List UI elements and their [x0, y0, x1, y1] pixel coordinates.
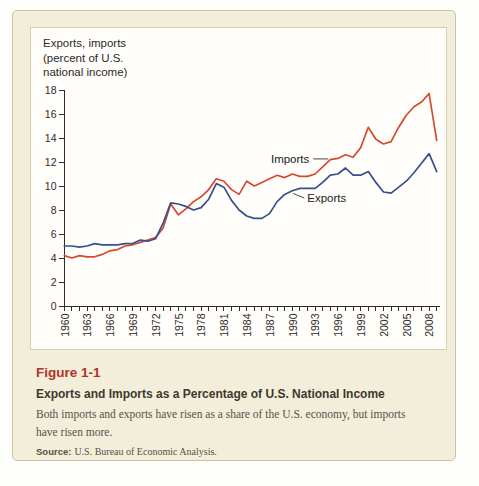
y-tick-label: 10: [45, 180, 57, 192]
y-tick-label: 8: [51, 204, 57, 216]
chart-panel: Exports, imports (percent of U.S. nation…: [30, 27, 447, 350]
figure-card: Exports, imports (percent of U.S. nation…: [12, 10, 456, 461]
y-tick-label: 12: [45, 156, 57, 168]
x-tick-label: 1963: [81, 313, 93, 337]
y-tick-label: 2: [51, 276, 57, 288]
y-tick-label: 6: [51, 228, 57, 240]
x-tick-label: 2002: [378, 313, 390, 337]
x-tick-label: 1978: [195, 313, 207, 337]
x-tick-label: 2005: [401, 313, 413, 337]
x-tick-label: 1987: [264, 313, 276, 337]
series-label-imports: Imports: [271, 153, 310, 165]
series-label-exports: Exports: [307, 192, 346, 204]
x-tick-label: 1969: [127, 313, 139, 337]
figure-source: Source:U.S. Bureau of Economic Analysis.: [36, 446, 217, 457]
y-tick-label: 14: [45, 132, 57, 144]
source-text: U.S. Bureau of Economic Analysis.: [74, 446, 216, 457]
y-tick-label: 18: [45, 84, 57, 96]
x-tick-label: 1996: [332, 313, 344, 337]
x-tick-label: 1993: [309, 313, 321, 337]
y-tick-label: 16: [45, 108, 57, 120]
exports-leader-line: [293, 194, 304, 199]
series-line-imports: [64, 94, 436, 258]
x-tick-label: 1984: [241, 313, 253, 337]
line-chart: 0246810121416181960196319661969197219751…: [31, 28, 446, 349]
series-line-exports: [64, 154, 436, 248]
x-tick-label: 1966: [104, 313, 116, 337]
figure-caption: Both imports and exports have risen as a…: [36, 406, 448, 441]
source-label: Source:: [36, 446, 71, 457]
figure-label: Figure 1-1: [36, 365, 101, 380]
x-tick-label: 1960: [59, 313, 71, 337]
x-tick-label: 1972: [150, 313, 162, 337]
y-tick-label: 4: [51, 252, 57, 264]
caption-line: have risen more.: [36, 424, 448, 442]
x-tick-label: 1990: [287, 313, 299, 337]
y-tick-label: 0: [51, 300, 57, 312]
x-tick-label: 1975: [173, 313, 185, 337]
figure-title: Exports and Imports as a Percentage of U…: [36, 387, 385, 401]
x-tick-label: 1999: [355, 313, 367, 337]
x-tick-label: 1981: [218, 313, 230, 337]
caption-line: Both imports and exports have risen as a…: [36, 406, 448, 424]
x-tick-label: 2008: [423, 313, 435, 337]
